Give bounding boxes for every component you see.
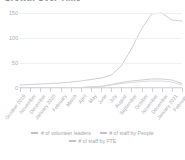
legend-item[interactable]: # of staff by People <box>100 130 154 136</box>
gridline <box>20 13 182 14</box>
legend-row: # of volunteer leaders# of staff by Peop… <box>31 130 153 136</box>
legend-label: # of volunteer leaders <box>41 130 91 136</box>
legend-row: # of staff by FTE <box>69 138 116 144</box>
y-axis-tick-label: 100 <box>9 35 18 41</box>
legend-item[interactable]: # of staff by FTE <box>69 138 116 144</box>
y-axis-tick-label: 150 <box>9 10 18 16</box>
x-axis-tick-label: May <box>87 93 98 104</box>
y-axis: 050100150 <box>0 8 18 88</box>
legend-label: # of staff by FTE <box>78 138 116 144</box>
series-lines <box>20 8 182 88</box>
legend-label: # of staff by People <box>109 130 153 136</box>
x-axis-tick <box>30 88 31 92</box>
line-chart: Growth Over Time 050100150 October 2019N… <box>0 0 185 160</box>
x-axis-tick <box>152 88 153 92</box>
x-axis-tick <box>162 88 163 92</box>
x-axis-tick <box>40 88 41 92</box>
x-axis-tick <box>121 88 122 92</box>
legend-line-icon <box>31 132 38 133</box>
x-axis-tick <box>101 88 102 92</box>
y-axis-tick-label: 0 <box>15 85 18 91</box>
x-axis-tick <box>61 88 62 92</box>
gridline <box>20 63 182 64</box>
chart-title: Growth Over Time <box>4 0 81 3</box>
y-axis-tick-label: 50 <box>12 60 18 66</box>
legend-line-icon <box>69 140 76 141</box>
x-axis-tick <box>172 88 173 92</box>
x-axis-tick <box>50 88 51 92</box>
x-axis-tick <box>20 88 21 92</box>
x-axis: October 2019NovemberDecemberJanuary 2020… <box>20 88 182 158</box>
gridline <box>20 38 182 39</box>
x-axis-tick <box>91 88 92 92</box>
chart-legend: # of volunteer leaders# of staff by Peop… <box>0 130 185 144</box>
x-axis-tick-label: June <box>96 93 107 105</box>
x-axis-tick <box>81 88 82 92</box>
x-axis-tick <box>142 88 143 92</box>
plot-area <box>20 8 182 88</box>
series-line <box>20 13 182 85</box>
x-axis-tick <box>71 88 72 92</box>
x-axis-tick <box>182 88 183 92</box>
x-axis-tick <box>131 88 132 92</box>
x-axis-tick-label: April <box>77 93 88 105</box>
legend-line-icon <box>100 132 107 133</box>
legend-item[interactable]: # of volunteer leaders <box>31 130 90 136</box>
x-axis-tick <box>111 88 112 92</box>
